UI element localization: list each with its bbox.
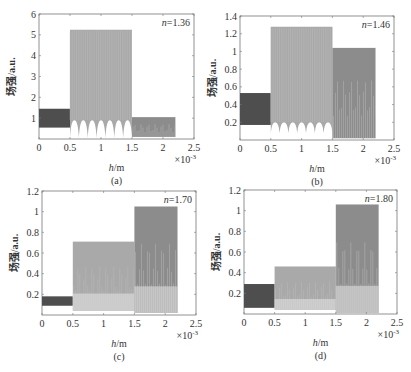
chart-panel-d: 00.511.522.50.20.40.60.811.2×10-3n=1.80场… [210, 185, 403, 363]
refractive-index-annotation: n=1.36 [162, 17, 190, 28]
x-tick-label: 2 [364, 317, 369, 328]
x-axis-label: h/m [109, 162, 125, 173]
y-tick-label: 6 [31, 9, 36, 20]
y-tick-label: 1.4 [225, 11, 238, 22]
x-tick-label: 1 [303, 317, 308, 328]
x-tick-label: 2.5 [190, 318, 203, 329]
refractive-index-annotation: n=1.46 [362, 19, 390, 30]
figure: 00.511.522.5123456×10-3n=1.36场强/a.u.h/m(… [0, 0, 411, 372]
y-tick-label: 0.4 [229, 267, 242, 278]
x-tick-label: 2.5 [188, 142, 201, 153]
x-tick-label: 0 [242, 317, 247, 328]
y-tick-label: 5 [31, 29, 36, 40]
panel-label: (d) [315, 350, 327, 362]
x-tick-label: 0.5 [268, 317, 281, 328]
x-tick-label: 1.5 [126, 142, 139, 153]
y-tick-label: 2 [31, 92, 36, 103]
chart-panel-a: 00.511.522.5123456×10-3n=1.36场强/a.u.h/m(… [5, 9, 200, 188]
y-tick-label: 0.6 [27, 248, 40, 259]
y-tick-label: 1 [34, 206, 39, 217]
x-scale-multiplier: ×10-3 [378, 328, 400, 340]
x-tick-label: 1.5 [326, 143, 339, 154]
y-axis-label: 场强/a.u. [210, 232, 222, 271]
x-tick-label: 0 [238, 143, 243, 154]
x-tick-label: 1 [101, 318, 106, 329]
y-tick-label: 1.2 [225, 28, 238, 39]
x-axis-label: h/m [313, 337, 329, 348]
y-tick-label: 0.2 [225, 117, 238, 128]
panel-label: (b) [311, 176, 323, 188]
x-tick-label: 1 [99, 142, 104, 153]
y-axis-label: 场强/a.u. [206, 58, 218, 97]
x-scale-multiplier: ×10-3 [375, 154, 397, 166]
y-tick-label: 0.2 [27, 289, 40, 300]
segment-0 [42, 296, 73, 305]
x-tick-label: 2.5 [391, 317, 404, 328]
x-tick-label: 0.5 [265, 143, 278, 154]
y-tick-label: 0.4 [27, 268, 40, 279]
y-tick-label: 0.8 [229, 226, 242, 237]
x-tick-label: 2 [361, 143, 366, 154]
x-axis-label: h/m [111, 338, 127, 349]
segment-0 [240, 93, 271, 125]
x-tick-label: 0.5 [67, 318, 80, 329]
chart-panel-c: 00.511.522.50.20.40.60.811.2×10-3n=1.70场… [8, 186, 202, 364]
y-tick-label: 0.4 [225, 99, 238, 110]
panel-label: (a) [111, 175, 122, 187]
x-axis-label: h/m [309, 163, 325, 174]
y-tick-label: 1 [232, 46, 237, 57]
y-tick-label: 0.8 [225, 64, 238, 75]
x-scale-multiplier: ×10-3 [177, 329, 199, 341]
refractive-index-annotation: n=1.70 [164, 194, 192, 205]
y-tick-label: 0.8 [27, 227, 40, 238]
x-tick-label: 0.5 [64, 142, 77, 153]
x-tick-label: 2.5 [388, 143, 401, 154]
y-tick-label: 0.6 [225, 81, 238, 92]
y-tick-label: 3 [31, 71, 36, 82]
y-tick-label: 1 [31, 113, 36, 124]
x-tick-label: 0 [40, 318, 45, 329]
y-axis-label: 场强/a.u. [8, 233, 20, 272]
x-tick-label: 1.5 [128, 318, 141, 329]
chart-panel-b: 00.511.522.50.20.40.60.811.21.4×10-3n=1.… [206, 11, 400, 189]
refractive-index-annotation: n=1.80 [365, 193, 393, 204]
y-tick-label: 4 [31, 50, 36, 61]
y-tick-label: 1.2 [27, 186, 40, 197]
x-scale-multiplier: ×10-3 [175, 153, 197, 165]
x-tick-label: 1.5 [330, 317, 343, 328]
x-tick-label: 2 [163, 318, 168, 329]
y-tick-label: 0.2 [229, 288, 242, 299]
panel-label: (c) [113, 351, 124, 363]
y-tick-label: 1 [236, 205, 241, 216]
y-axis-label: 场强/a.u. [5, 57, 17, 96]
x-tick-label: 2 [161, 142, 166, 153]
y-tick-label: 1.2 [229, 185, 242, 196]
y-tick-label: 0.6 [229, 247, 242, 258]
x-tick-label: 1 [299, 143, 304, 154]
x-tick-label: 0 [37, 142, 42, 153]
